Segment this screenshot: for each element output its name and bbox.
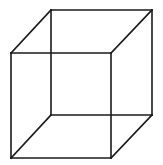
- connector-top-left: [11, 10, 51, 53]
- connector-bottom-left: [11, 115, 51, 158]
- connector-top-right: [111, 10, 152, 53]
- necker-cube-diagram: [0, 0, 163, 165]
- connector-bottom-right: [111, 115, 152, 158]
- cube-wireframe: [0, 0, 163, 165]
